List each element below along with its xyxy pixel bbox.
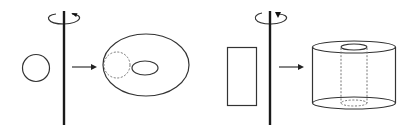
hollow-cylinder xyxy=(313,41,396,109)
torus-outer-ellipse xyxy=(103,34,189,96)
transform-arrow-icon xyxy=(279,64,304,70)
transform-arrow-icon xyxy=(72,64,97,70)
torus-hole-ellipse xyxy=(132,61,158,75)
inner-tube-bottom xyxy=(341,100,367,106)
torus-cross-section-dashed xyxy=(104,52,130,78)
source-circle xyxy=(23,55,50,82)
panel-right-cylinder xyxy=(228,11,396,125)
diagram-canvas: Solids of revolution: a circle rotated a… xyxy=(0,0,418,135)
source-rectangle xyxy=(228,48,257,106)
inner-tube-top xyxy=(341,44,367,50)
panel-left-torus xyxy=(23,11,190,125)
